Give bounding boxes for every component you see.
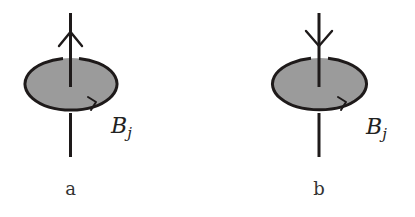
label-bj-a: Bj: [110, 113, 132, 142]
linking-diagram: Bj a Bj b: [0, 0, 415, 217]
panel-b: Bj b: [273, 13, 388, 199]
caption-a: a: [65, 178, 76, 199]
panel-a: Bj a: [25, 13, 132, 199]
label-bj-b: Bj: [365, 114, 387, 143]
diagram-canvas: Bj a Bj b: [0, 0, 415, 217]
caption-b: b: [313, 178, 325, 199]
